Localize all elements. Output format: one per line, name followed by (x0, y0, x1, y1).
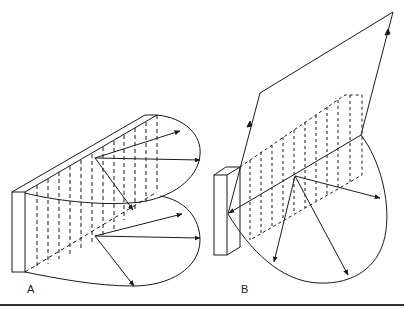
array-slab-b (214, 167, 240, 255)
panel-b (214, 12, 393, 283)
lobe-b (228, 135, 387, 283)
dashed-elements-b (240, 95, 362, 240)
lower-lobe-a (25, 196, 200, 286)
diagram-canvas (0, 0, 404, 309)
arrows-b (229, 135, 380, 275)
incoming-ray-b (228, 12, 393, 214)
panel-label-b: B (241, 283, 248, 295)
bottom-rule (0, 304, 404, 306)
arrows-a (95, 131, 200, 286)
panel-label-a: A (27, 283, 34, 295)
panel-a (12, 115, 200, 286)
